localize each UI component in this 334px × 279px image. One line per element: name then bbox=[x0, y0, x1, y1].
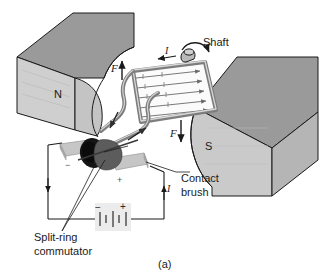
contact-brush-label-line2: brush bbox=[181, 186, 209, 198]
force-top-label: F bbox=[111, 62, 118, 74]
shaft-label: Shaft bbox=[203, 36, 229, 48]
battery-positive-sign: + bbox=[120, 201, 126, 212]
circuit-current-arrows bbox=[48, 178, 164, 200]
brush-positive-sign: + bbox=[117, 175, 122, 185]
circuit-current-label: I bbox=[167, 183, 170, 194]
south-pole-label: S bbox=[205, 140, 212, 152]
shaft bbox=[181, 49, 195, 62]
dc-motor-figure: N S Shaft F F I I Contact brush Split-ri… bbox=[0, 0, 334, 279]
coil-current-arrow-top bbox=[158, 56, 176, 59]
battery-negative-sign: − bbox=[95, 202, 101, 213]
commutator-label-line2: commutator bbox=[34, 245, 92, 257]
figure-caption: (a) bbox=[158, 258, 171, 270]
north-pole-label: N bbox=[54, 88, 62, 100]
coil-current-label: I bbox=[165, 45, 168, 56]
force-bottom-label: F bbox=[170, 127, 177, 139]
brush-negative-sign: − bbox=[65, 160, 70, 170]
contact-brush-label-line1: Contact bbox=[181, 172, 219, 184]
commutator-label-line1: Split-ring bbox=[34, 231, 77, 243]
